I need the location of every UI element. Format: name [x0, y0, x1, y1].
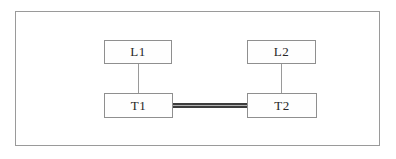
- node-t1-label: T1: [131, 98, 146, 114]
- node-t1: T1: [104, 93, 173, 118]
- node-l1-label: L1: [130, 44, 145, 60]
- node-l2-label: L2: [274, 44, 289, 60]
- node-l2: L2: [247, 40, 316, 64]
- trunk-link-t1-t2: [173, 103, 247, 108]
- link-l1-t1: [138, 64, 139, 93]
- node-t2-label: T2: [274, 98, 289, 114]
- node-l1: L1: [104, 40, 172, 64]
- link-l2-t2: [281, 64, 282, 93]
- diagram-outer-frame: [15, 11, 380, 146]
- node-t2: T2: [247, 93, 317, 118]
- diagram-canvas: L1 L2 T1 T2: [0, 0, 396, 159]
